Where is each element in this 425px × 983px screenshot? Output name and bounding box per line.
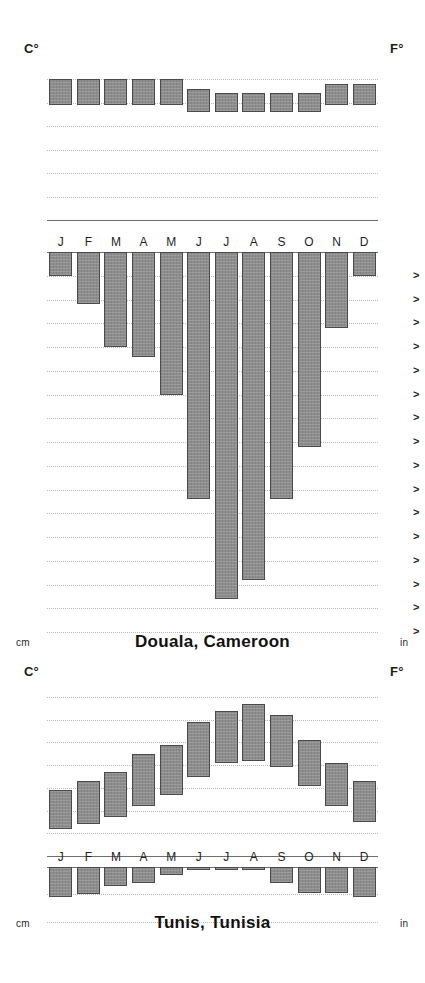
overflow-arrow-icon: > — [413, 531, 419, 542]
precipitation-bar-O-9 — [298, 867, 321, 893]
gridline — [47, 585, 378, 586]
overflow-arrow-icon: > — [413, 389, 419, 400]
overflow-arrow-icon: > — [413, 579, 419, 590]
temperature-bar-N-10 — [325, 84, 348, 105]
tunis-title: Tunis, Tunisia — [0, 913, 425, 933]
precipitation-bar-N-10 — [325, 252, 348, 328]
month-label-0: J — [49, 851, 72, 863]
month-label-2: M — [104, 236, 127, 248]
temperature-bar-A-3 — [132, 754, 155, 806]
month-label-5: J — [187, 851, 210, 863]
temperature-bar-J-6 — [215, 93, 238, 112]
precipitation-bar-S-8 — [270, 867, 293, 883]
temperature-bar-F-1 — [77, 781, 100, 824]
gridline — [47, 197, 378, 198]
month-label-4: M — [160, 236, 183, 248]
gridline — [47, 537, 378, 538]
month-label-3: A — [132, 236, 155, 248]
gridline — [47, 173, 378, 174]
gridline — [47, 720, 378, 721]
gridline — [47, 347, 378, 348]
precipitation-bar-D-11 — [353, 252, 376, 276]
month-label-1: F — [77, 851, 100, 863]
temperature-bar-M-4 — [160, 745, 183, 795]
temperature-bar-D-11 — [353, 781, 376, 822]
precipitation-bar-M-4 — [160, 252, 183, 395]
precipitation-bar-M-2 — [104, 252, 127, 347]
overflow-arrow-icon: > — [413, 602, 419, 613]
month-label-10: N — [325, 851, 348, 863]
month-label-8: S — [270, 851, 293, 863]
precipitation-bar-A-7 — [242, 867, 265, 870]
overflow-arrow-icon: > — [413, 460, 419, 471]
temperature-bar-O-9 — [298, 93, 321, 112]
precipitation-bar-A-3 — [132, 867, 155, 883]
overflow-arrow-icon: > — [413, 341, 419, 352]
gridline — [47, 697, 378, 698]
temperature-bar-F-1 — [77, 79, 100, 105]
precipitation-bar-O-9 — [298, 252, 321, 447]
temperature-bar-N-10 — [325, 763, 348, 806]
month-label-6: J — [215, 236, 238, 248]
precipitation-bar-J-0 — [49, 252, 72, 276]
overflow-arrow-icon: > — [413, 317, 419, 328]
precipitation-bar-J-5 — [187, 867, 210, 870]
temperature-bar-M-4 — [160, 79, 183, 105]
month-label-4: M — [160, 851, 183, 863]
douala-temp-right-unit-label: F° — [390, 41, 404, 56]
precipitation-bar-N-10 — [325, 867, 348, 893]
month-label-8: S — [270, 236, 293, 248]
temperature-bar-A-7 — [242, 93, 265, 112]
overflow-arrow-icon: > — [413, 294, 419, 305]
temperature-bar-S-8 — [270, 93, 293, 112]
gridline — [47, 608, 378, 609]
temperature-bar-A-7 — [242, 704, 265, 761]
month-label-9: O — [298, 851, 321, 863]
precipitation-bar-M-4 — [160, 867, 183, 875]
overflow-arrow-icon: > — [413, 484, 419, 495]
overflow-arrow-icon: > — [413, 436, 419, 447]
gridline — [47, 466, 378, 467]
tunis-temp-right-unit-label: F° — [390, 664, 404, 679]
panel-tunis: C° F° 359530862577206815591050541032 cm … — [0, 660, 425, 983]
tunis-temp-plot-area: 359530862577206815591050541032 — [47, 688, 378, 856]
temperature-bar-J-5 — [187, 89, 210, 112]
month-label-2: M — [104, 851, 127, 863]
temperature-bar-A-3 — [132, 79, 155, 105]
gridline — [47, 490, 378, 491]
gridline — [47, 126, 378, 127]
month-label-5: J — [187, 236, 210, 248]
precipitation-bar-J-0 — [49, 867, 72, 897]
precipitation-bar-A-7 — [242, 252, 265, 580]
month-label-3: A — [132, 851, 155, 863]
month-label-0: J — [49, 236, 72, 248]
gridline — [47, 513, 378, 514]
precipitation-bar-A-3 — [132, 252, 155, 357]
month-label-6: J — [215, 851, 238, 863]
climograph-figure: C° F° 30862577206815591050541032 cm in J… — [0, 0, 425, 983]
gridline — [47, 418, 378, 419]
temperature-bar-M-2 — [104, 772, 127, 817]
overflow-arrow-icon: > — [413, 507, 419, 518]
month-label-11: D — [353, 236, 376, 248]
month-label-7: A — [242, 851, 265, 863]
gridline — [47, 150, 378, 151]
panel-douala: C° F° 30862577206815591050541032 cm in J… — [0, 0, 425, 650]
temperature-bar-S-8 — [270, 715, 293, 767]
gridline — [47, 371, 378, 372]
month-label-10: N — [325, 236, 348, 248]
temperature-bar-J-0 — [49, 79, 72, 105]
gridline — [47, 395, 378, 396]
douala-title: Douala, Cameroon — [0, 632, 425, 652]
precipitation-bar-F-1 — [77, 252, 100, 304]
precipitation-bar-J-6 — [215, 252, 238, 599]
overflow-arrow-icon: > — [413, 555, 419, 566]
overflow-arrow-icon: > — [413, 365, 419, 376]
month-label-9: O — [298, 236, 321, 248]
precipitation-bar-F-1 — [77, 867, 100, 894]
gridline — [47, 442, 378, 443]
temperature-bar-J-6 — [215, 711, 238, 763]
tunis-temp-left-unit-label: C° — [24, 664, 39, 679]
overflow-arrow-icon: > — [413, 270, 419, 281]
temperature-bar-D-11 — [353, 84, 376, 105]
